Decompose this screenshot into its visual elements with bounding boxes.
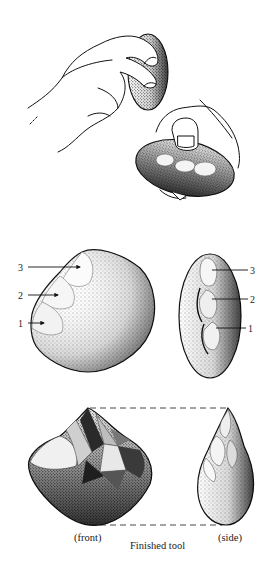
side-flake-label-1: 1 [248, 323, 253, 334]
finished-tool-panel: (front) (side) Finished tool [29, 408, 254, 551]
core-front-view: 3 2 1 [18, 250, 155, 372]
side-flake-label-2: 2 [250, 294, 255, 305]
core-side-view: 3 2 1 [179, 254, 255, 378]
front-flake-label-1: 1 [18, 318, 23, 329]
figure-caption: Finished tool [130, 540, 185, 551]
tool-front-view [29, 408, 152, 525]
front-flake-label-3: 3 [18, 262, 23, 273]
striking-panel [28, 34, 240, 205]
front-view-label: (front) [74, 532, 102, 544]
tool-side-view [198, 408, 254, 525]
front-flake-label-2: 2 [18, 290, 23, 301]
stone-tool-making-figure: 3 2 1 3 2 1 [0, 0, 274, 576]
side-view-label: (side) [218, 532, 242, 544]
side-flake-label-3: 3 [250, 265, 255, 276]
flaked-core-panel: 3 2 1 3 2 1 [18, 250, 255, 378]
